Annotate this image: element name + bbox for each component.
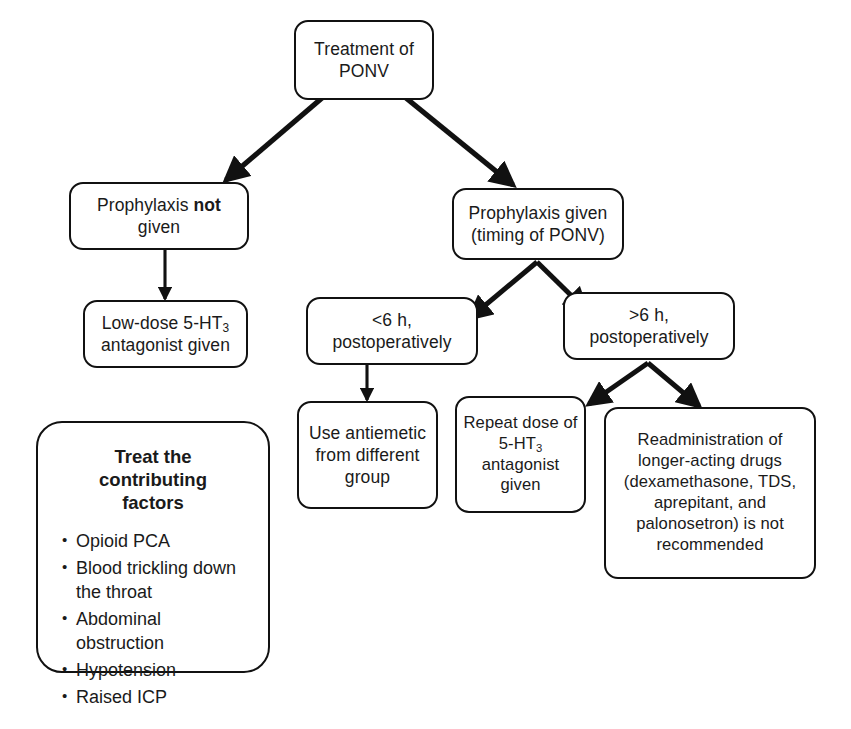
subscript-3: 3 — [536, 442, 542, 454]
panel-title: Treat the contributing factors — [58, 445, 248, 514]
subscript-3: 3 — [223, 321, 230, 335]
node-prophylaxis-not-given[interactable]: Prophylaxis notgiven — [69, 182, 249, 250]
emphasis-not: not — [194, 195, 222, 215]
node-repeat-dose-5ht3[interactable]: Repeat dose of5-HT3antagonistgiven — [455, 396, 586, 513]
node-under-6h-postoperatively-label: <6 h,postoperatively — [314, 309, 470, 353]
node-readministration-longer-acting-drugs-label: Readministration of longer-acting drugs … — [612, 430, 808, 555]
panel-treat-contributing-factors[interactable]: Treat the contributing factors Opioid PC… — [36, 421, 270, 673]
node-over-6h-postoperatively-label: >6 h,postoperatively — [571, 304, 727, 348]
edge-over-6h-to-readministration — [648, 363, 699, 406]
node-low-dose-5ht3-antagonist-label: Low-dose 5-HT3antagonist given — [91, 312, 240, 356]
edge-root-to-no-prophylaxis — [226, 98, 322, 180]
node-low-dose-5ht3-antagonist[interactable]: Low-dose 5-HT3antagonist given — [83, 300, 248, 368]
node-treatment-of-ponv-label: Treatment ofPONV — [302, 38, 426, 82]
node-treatment-of-ponv[interactable]: Treatment ofPONV — [294, 20, 434, 100]
list-item: Hypotension — [62, 659, 248, 683]
panel-factor-list: Opioid PCA Blood trickling down the thro… — [58, 530, 248, 713]
edge-root-to-prophylaxis-given — [406, 98, 513, 185]
node-readministration-longer-acting-drugs[interactable]: Readministration of longer-acting drugs … — [604, 407, 816, 579]
node-under-6h-postoperatively[interactable]: <6 h,postoperatively — [306, 297, 478, 365]
list-item: Abdominal obstruction — [62, 608, 248, 656]
node-repeat-dose-5ht3-label: Repeat dose of5-HT3antagonistgiven — [463, 413, 578, 497]
node-use-antiemetic-different-group[interactable]: Use antiemetic from different group — [297, 401, 438, 509]
list-item: Blood trickling down the throat — [62, 557, 248, 605]
node-prophylaxis-given[interactable]: Prophylaxis given(timing of PONV) — [452, 188, 624, 260]
edge-over-6h-to-repeat-dose — [589, 363, 648, 404]
node-prophylaxis-not-given-label: Prophylaxis notgiven — [77, 194, 241, 238]
flowchart-canvas: Treatment ofPONV Prophylaxis notgiven Lo… — [0, 0, 851, 729]
list-item: Raised ICP — [62, 686, 248, 710]
node-use-antiemetic-different-group-label: Use antiemetic from different group — [305, 422, 430, 488]
node-prophylaxis-given-label: Prophylaxis given(timing of PONV) — [460, 202, 616, 246]
list-item: Opioid PCA — [62, 530, 248, 554]
node-over-6h-postoperatively[interactable]: >6 h,postoperatively — [563, 292, 735, 360]
edge-prophylaxis-given-to-under-6h — [470, 262, 537, 318]
